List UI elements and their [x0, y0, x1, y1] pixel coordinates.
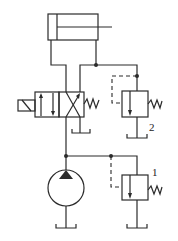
- valve-ports: [66, 117, 90, 170]
- solenoid-diagonal: [22, 100, 31, 111]
- cross-arrow-2: [66, 95, 79, 117]
- directional-valve-4-2: [18, 92, 99, 117]
- line-b-to-valve2: [80, 65, 137, 92]
- valve2-label: 2: [149, 121, 155, 133]
- valve2-body: [122, 91, 148, 117]
- junction-dot: [94, 63, 98, 67]
- cylinder-lines: [51, 40, 137, 92]
- spring-icon: [84, 99, 99, 108]
- valve1-body: [122, 175, 148, 200]
- line-cylinder-a: [51, 40, 66, 92]
- valve2-arrow-head: [128, 110, 132, 116]
- arrow-up-head: [39, 93, 43, 98]
- spring-icon: [148, 186, 162, 194]
- valve-right-envelope: [59, 92, 84, 117]
- pilot-line-dashed: [112, 76, 137, 103]
- valve1-label: 1: [152, 166, 158, 178]
- spring-icon: [148, 100, 162, 108]
- line-pump-to-valve1: [66, 156, 137, 175]
- tank-icon: [72, 129, 90, 133]
- valve-left-envelope: [35, 92, 59, 117]
- hydraulic-cylinder: [48, 14, 112, 40]
- hydraulic-circuit-diagram: 2 1: [0, 0, 178, 241]
- valve1-arrow-head: [128, 193, 132, 199]
- pump-triangle-icon: [59, 170, 73, 179]
- arrow-down-head: [51, 111, 55, 116]
- pilot-line-dashed: [111, 156, 122, 187]
